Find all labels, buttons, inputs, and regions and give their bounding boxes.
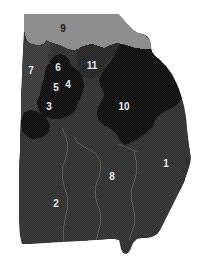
map-svg: [0, 0, 201, 270]
halftone-texture: [0, 0, 201, 270]
district-fills: [0, 0, 201, 270]
georgia-district-map: 1234567891011: [0, 0, 201, 270]
